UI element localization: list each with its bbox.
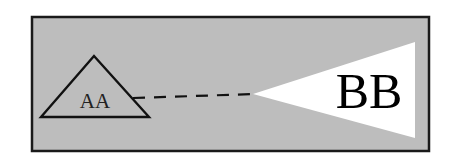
triangle-label: AA xyxy=(80,89,111,113)
diagram-canvas: AA BB xyxy=(0,0,457,163)
wedge-label: BB xyxy=(336,63,403,119)
